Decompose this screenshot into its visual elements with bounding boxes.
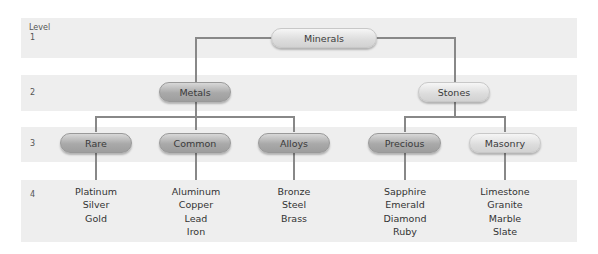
level-2-label: 2 bbox=[30, 88, 35, 98]
connector bbox=[404, 116, 406, 132]
leaf-item: Platinum bbox=[56, 185, 136, 198]
leaf-item: Lead bbox=[156, 212, 236, 225]
connector bbox=[195, 37, 197, 82]
connector bbox=[95, 152, 97, 180]
connector bbox=[293, 152, 295, 180]
level-2-band bbox=[21, 75, 577, 111]
level-1-label: 1 bbox=[30, 33, 35, 43]
leaf-group-rare: Platinum Silver Gold bbox=[56, 185, 136, 225]
leaf-group-precious: Sapphire Emerald Diamond Ruby bbox=[365, 185, 445, 238]
node-minerals[interactable]: Minerals bbox=[271, 28, 377, 48]
node-common[interactable]: Common bbox=[159, 133, 231, 153]
connector bbox=[293, 116, 295, 132]
connector bbox=[95, 116, 97, 132]
leaf-group-masonry: Limestone Granite Marble Slate bbox=[465, 185, 545, 238]
leaf-item: Iron bbox=[156, 225, 236, 238]
level-3-label: 3 bbox=[30, 139, 35, 149]
node-rare[interactable]: Rare bbox=[60, 133, 132, 153]
connector bbox=[404, 116, 506, 118]
level-4-label: 4 bbox=[30, 190, 35, 200]
leaf-item: Aluminum bbox=[156, 185, 236, 198]
connector bbox=[454, 37, 456, 82]
connector bbox=[454, 100, 456, 117]
leaf-item: Steel bbox=[254, 198, 334, 211]
connector bbox=[404, 152, 406, 180]
leaf-group-common: Aluminum Copper Lead Iron bbox=[156, 185, 236, 238]
leaf-item: Slate bbox=[465, 225, 545, 238]
connector bbox=[504, 116, 506, 132]
connector bbox=[195, 152, 197, 180]
leaf-item: Copper bbox=[156, 198, 236, 211]
leaf-item: Sapphire bbox=[365, 185, 445, 198]
connector bbox=[95, 116, 295, 118]
leaf-item: Granite bbox=[465, 198, 545, 211]
node-masonry[interactable]: Masonry bbox=[469, 133, 541, 153]
connector bbox=[504, 152, 506, 180]
level-header: Level bbox=[29, 23, 50, 33]
leaf-item: Bronze bbox=[254, 185, 334, 198]
connector bbox=[195, 100, 197, 130]
leaf-item: Marble bbox=[465, 212, 545, 225]
node-metals[interactable]: Metals bbox=[159, 82, 231, 102]
leaf-item: Gold bbox=[56, 212, 136, 225]
node-alloys[interactable]: Alloys bbox=[258, 133, 330, 153]
node-precious[interactable]: Precious bbox=[368, 133, 441, 153]
leaf-item: Ruby bbox=[365, 225, 445, 238]
leaf-item: Emerald bbox=[365, 198, 445, 211]
leaf-group-alloys: Bronze Steel Brass bbox=[254, 185, 334, 225]
leaf-item: Brass bbox=[254, 212, 334, 225]
leaf-item: Limestone bbox=[465, 185, 545, 198]
leaf-item: Diamond bbox=[365, 212, 445, 225]
leaf-item: Silver bbox=[56, 198, 136, 211]
node-stones[interactable]: Stones bbox=[418, 82, 490, 102]
